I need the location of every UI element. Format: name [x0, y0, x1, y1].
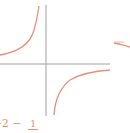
curve-right-partial: [114, 43, 130, 47]
curve-upper-left: [0, 6, 39, 55]
formula: -2 − 1: [0, 117, 38, 130]
formula-fraction: 1: [28, 118, 38, 130]
formula-prefix: -2: [0, 117, 9, 130]
curve-lower-right: [54, 70, 110, 115]
hyperbola-plot: [0, 0, 130, 133]
formula-minus: −: [12, 117, 21, 130]
formula-numerator: 1: [28, 118, 38, 130]
